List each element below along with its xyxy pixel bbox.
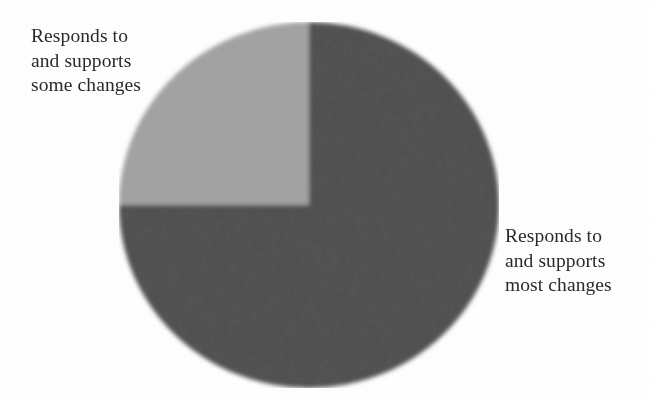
pie-label-some-changes: Responds to and supports some changes	[31, 24, 181, 98]
pie-chart-page: Responds to and supports some changes Re…	[0, 0, 650, 401]
pie-label-most-changes: Responds to and supports most changes	[505, 224, 645, 298]
